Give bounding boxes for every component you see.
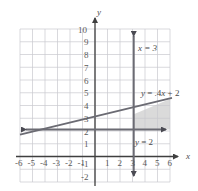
label-horizontal-line-eq: = 2 — [139, 137, 153, 147]
y-tick-2: 2 — [84, 128, 89, 137]
label-slanted-line-plus2: + 2 — [165, 88, 179, 98]
x-tick-minus-1: -1 — [78, 159, 86, 168]
y-tick-7: 7 — [84, 64, 89, 73]
y-tick-9: 9 — [84, 38, 89, 47]
x-tick-minus-4: -4 — [40, 159, 48, 168]
x-tick-minus-6: -6 — [15, 159, 23, 168]
label-vertical-line: x = 3 — [138, 43, 157, 53]
x-tick-minus-5: -5 — [28, 159, 36, 168]
x-tick-minus-2: -2 — [65, 159, 73, 168]
y-tick-5: 5 — [84, 89, 89, 98]
y-tick-6: 6 — [84, 77, 89, 86]
y-tick-minus-2: -2 — [81, 173, 89, 182]
y-tick-4: 4 — [84, 102, 89, 111]
x-tick-3: 3 — [131, 159, 136, 168]
x-axis-label: x — [186, 152, 190, 161]
y-tick-8: 8 — [84, 51, 89, 60]
y-tick-10: 10 — [78, 26, 87, 35]
x-tick-minus-3: -3 — [53, 159, 61, 168]
label-slanted-line: y = .4x + 2 — [141, 88, 179, 98]
y-tick-3: 3 — [84, 115, 89, 124]
x-tick-6: 6 — [168, 159, 173, 168]
y-tick-1: 1 — [84, 140, 89, 149]
graph-figure: 10 9 8 7 6 5 4 3 2 1 -1 -2 -6 -5 -4 -3 -… — [0, 0, 198, 191]
x-tick-4: 4 — [143, 159, 148, 168]
y-axis-label: y — [97, 8, 101, 17]
label-slanted-line-eq: = .4 — [145, 88, 161, 98]
x-tick-2: 2 — [118, 159, 123, 168]
x-tick-5: 5 — [155, 159, 160, 168]
x-tick-1: 1 — [105, 159, 110, 168]
label-horizontal-line: y = 2 — [135, 137, 153, 147]
